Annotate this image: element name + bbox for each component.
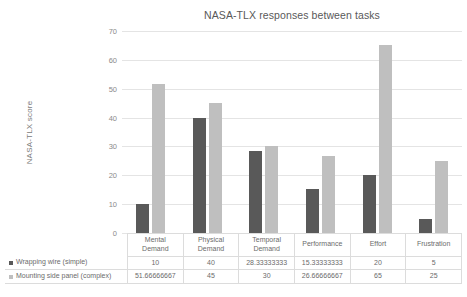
bar: [152, 84, 165, 233]
table-cell-value: 5: [406, 256, 462, 270]
bar: [322, 156, 335, 233]
table-cell-value: 28.33333333: [239, 256, 295, 270]
bar: [209, 103, 222, 233]
data-table: MentalDemandPhysicalDemandTemporalDemand…: [5, 233, 462, 284]
table-corner-cell: [5, 234, 128, 257]
bar: [379, 45, 392, 233]
bar-group: [122, 31, 179, 233]
table-column-header: Effort: [350, 234, 406, 257]
table-row: Wrapping wire (simple)104028.3333333315.…: [5, 256, 462, 270]
table-cell-value: 51.66666667: [128, 270, 184, 284]
table-column-header: Performance: [294, 234, 350, 257]
bar: [193, 118, 206, 233]
y-axis-tick-label: 40: [109, 113, 117, 122]
plot-area: 706050403020100: [122, 31, 462, 233]
y-axis-tick-label: 60: [109, 55, 117, 64]
y-axis-tick-label: 30: [109, 142, 117, 151]
table-column-header: TemporalDemand: [239, 234, 295, 257]
table-cell-value: 65: [350, 270, 406, 284]
bar-group: [405, 31, 462, 233]
bars-layer: [122, 31, 462, 233]
legend-label: Wrapping wire (simple): [16, 258, 87, 265]
legend-label: Mounting side panel (complex): [16, 272, 111, 279]
bar: [419, 219, 432, 233]
table-column-header: Frustration: [406, 234, 462, 257]
table-column-header: MentalDemand: [128, 234, 184, 257]
y-axis-title: NASA-TLX score: [25, 73, 34, 193]
y-axis-tick-label: 50: [109, 84, 117, 93]
table-cell-value: 45: [183, 270, 239, 284]
bar-group: [235, 31, 292, 233]
table-cell-value: 15.33333333: [294, 256, 350, 270]
bar: [265, 146, 278, 233]
table-header-row: MentalDemandPhysicalDemandTemporalDemand…: [5, 234, 462, 257]
y-axis-tick-label: 20: [109, 171, 117, 180]
legend-swatch-icon: [9, 275, 13, 279]
bar-group: [349, 31, 406, 233]
bar-group: [179, 31, 236, 233]
table-body: Wrapping wire (simple)104028.3333333315.…: [5, 256, 462, 284]
bar: [435, 161, 448, 233]
table-cell-value: 10: [128, 256, 184, 270]
table-cell-value: 30: [239, 270, 295, 284]
table-row: Mounting side panel (complex)51.66666667…: [5, 270, 462, 284]
table-cell-value: 26.66666667: [294, 270, 350, 284]
table-cell-value: 20: [350, 256, 406, 270]
chart-title: NASA-TLX responses between tasks: [122, 9, 462, 21]
bar-group: [292, 31, 349, 233]
table-cell-value: 40: [183, 256, 239, 270]
bar: [136, 204, 149, 233]
table-cell-value: 25: [406, 270, 462, 284]
y-axis-tick-label: 70: [109, 27, 117, 36]
table-column-header: PhysicalDemand: [183, 234, 239, 257]
bar: [306, 189, 319, 233]
bar: [249, 151, 262, 233]
legend-swatch-icon: [9, 261, 13, 265]
legend-entry: Wrapping wire (simple): [5, 256, 128, 270]
y-axis-tick-label: 10: [109, 200, 117, 209]
bar: [363, 175, 376, 233]
legend-entry: Mounting side panel (complex): [5, 270, 128, 284]
